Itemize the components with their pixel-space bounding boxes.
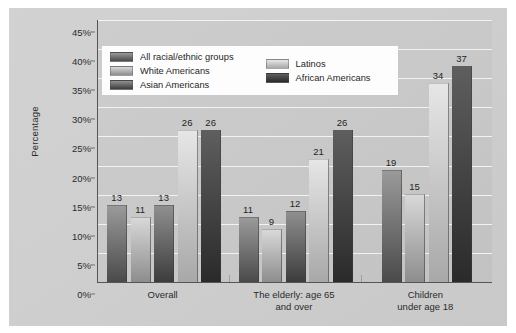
bar-value-label: 26 <box>205 117 216 128</box>
bar <box>154 205 174 282</box>
legend-item: White Americans <box>110 64 266 77</box>
y-tick-mark <box>90 294 95 295</box>
y-tick-mark <box>90 177 95 178</box>
x-axis-category-labels: OverallThe elderly: age 65and overChildr… <box>97 286 493 320</box>
bar-value-label: 13 <box>111 192 122 203</box>
bar <box>405 194 425 282</box>
y-tick-mark <box>90 264 95 265</box>
bar <box>107 205 127 282</box>
legend-label: White Americans <box>140 66 210 76</box>
y-axis-tick-labels: 0%5%10%15%20%25%30%35%40%45% <box>27 20 95 282</box>
bar-value-label: 21 <box>313 146 324 157</box>
bar <box>382 170 402 282</box>
legend-column-1: All racial/ethnic groupsWhite AmericansA… <box>110 50 266 91</box>
legend-item: Latinos <box>266 57 392 70</box>
y-tick-label: 15% <box>72 201 91 212</box>
bar <box>333 130 353 282</box>
bar-value-label: 13 <box>158 192 169 203</box>
y-tick-label: 30% <box>72 114 91 125</box>
bar <box>201 130 221 282</box>
bar <box>429 83 449 282</box>
x-category-label-line: Overall <box>148 289 178 301</box>
bar <box>239 217 259 282</box>
legend-label: African Americans <box>296 73 371 83</box>
bar-value-label: 11 <box>135 204 145 215</box>
x-category-label: Overall <box>148 289 178 301</box>
legend-item: African Americans <box>266 71 392 84</box>
y-tick-mark <box>90 119 95 120</box>
group-separator-tick <box>361 275 362 282</box>
bar-value-label: 37 <box>456 53 467 64</box>
bar-value-label: 9 <box>269 216 274 227</box>
y-tick-mark <box>90 32 95 33</box>
y-tick-mark <box>90 61 95 62</box>
bar-value-label: 11 <box>243 204 253 215</box>
x-category-label: Childrenunder age 18 <box>397 289 453 313</box>
bar-value-label: 15 <box>409 181 420 192</box>
legend-label: Latinos <box>296 59 326 69</box>
bar-value-label: 34 <box>433 70 444 81</box>
legend-swatch <box>110 52 133 62</box>
bar <box>286 211 306 282</box>
y-tick-label: 20% <box>72 172 91 183</box>
y-tick-mark <box>90 90 95 91</box>
x-category-label-line: and over <box>253 301 334 313</box>
bar <box>262 229 282 282</box>
y-tick-label: 5% <box>77 259 91 270</box>
y-tick-mark <box>90 148 95 149</box>
x-category-label-line: The elderly: age 65 <box>253 289 334 301</box>
y-tick-mark <box>90 235 95 236</box>
y-tick-label: 10% <box>72 230 91 241</box>
bar <box>131 217 151 282</box>
bar <box>309 159 329 282</box>
y-tick-label: 0% <box>77 289 91 300</box>
legend-swatch <box>110 80 133 90</box>
bar-value-label: 12 <box>290 198 301 209</box>
x-category-label-line: under age 18 <box>397 301 453 313</box>
x-category-label-line: Children <box>397 289 453 301</box>
bar-value-label: 19 <box>386 157 397 168</box>
legend-item: All racial/ethnic groups <box>110 50 266 63</box>
chart-legend: All racial/ethnic groupsWhite AmericansA… <box>102 46 398 95</box>
legend-swatch <box>266 73 289 83</box>
legend-item: Asian Americans <box>110 78 266 91</box>
legend-swatch <box>266 59 289 69</box>
legend-swatch <box>110 66 133 76</box>
y-tick-mark <box>90 206 95 207</box>
y-tick-label: 45% <box>72 27 91 38</box>
legend-column-2: LatinosAfrican Americans <box>266 50 392 91</box>
bar <box>178 130 198 282</box>
y-tick-label: 40% <box>72 56 91 67</box>
group-separator-tick <box>229 275 230 282</box>
bar-value-label: 26 <box>182 117 193 128</box>
y-tick-label: 35% <box>72 85 91 96</box>
x-category-label: The elderly: age 65and over <box>253 289 334 313</box>
y-tick-label: 25% <box>72 143 91 154</box>
legend-label: All racial/ethnic groups <box>140 52 234 62</box>
bar-value-label: 26 <box>337 117 348 128</box>
legend-label: Asian Americans <box>140 80 209 90</box>
chart-figure: Percentage 0%5%10%15%20%25%30%35%40%45% … <box>9 8 507 326</box>
bar <box>452 66 472 282</box>
